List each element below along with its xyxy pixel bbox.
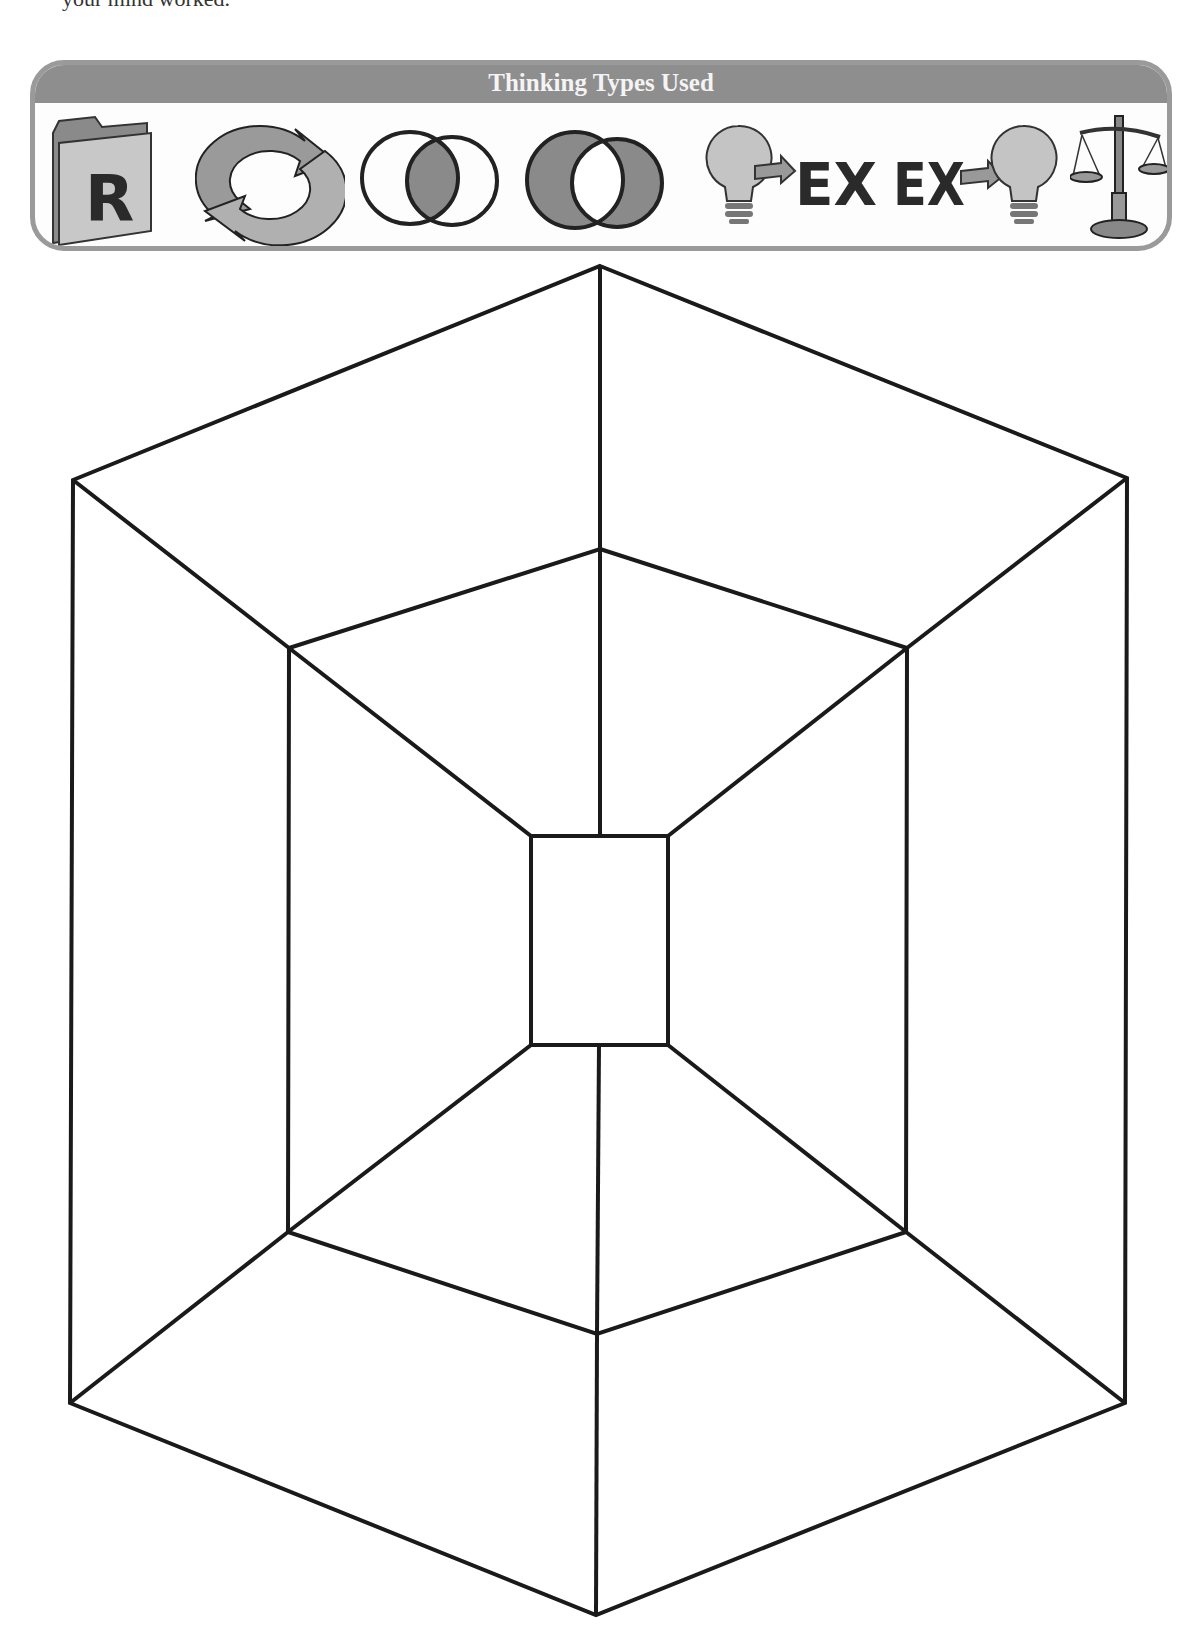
spoke-bottom-right — [906, 1232, 1125, 1403]
inner-spoke-bottom-right — [668, 1045, 906, 1232]
inner-spoke-top-left — [289, 648, 531, 836]
spoke-bottom-left — [70, 1232, 288, 1403]
inner-spoke-bottom-left — [288, 1045, 531, 1232]
spoke-bottom — [596, 1334, 597, 1615]
hexagon-organizer-diagram — [0, 0, 1199, 1640]
spoke-top-right — [907, 478, 1127, 648]
inner-spoke-bottom — [597, 1045, 599, 1334]
center-rectangle — [531, 836, 668, 1045]
spoke-top-left — [73, 480, 289, 648]
inner-spoke-top-right — [668, 648, 907, 836]
